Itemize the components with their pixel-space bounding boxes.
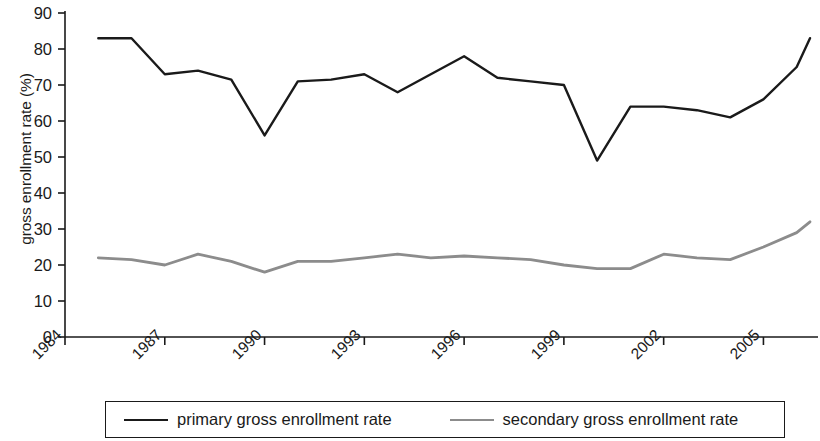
- chart-legend: primary gross enrollment rate secondary …: [105, 401, 785, 438]
- y-tick-label-40: 40: [34, 185, 52, 202]
- legend-label-primary: primary gross enrollment rate: [177, 410, 392, 429]
- legend-item-primary: primary gross enrollment rate: [124, 410, 392, 429]
- y-tick-label-10: 10: [34, 293, 52, 310]
- legend-label-secondary: secondary gross enrollment rate: [503, 410, 739, 429]
- series-line-primary: [98, 38, 810, 160]
- y-axis-tick-labels: 0102030405060708090: [0, 0, 52, 441]
- series-line-secondary: [98, 222, 810, 272]
- y-tick-label-20: 20: [34, 257, 52, 274]
- y-tick-label-90: 90: [34, 5, 52, 22]
- y-tick-label-50: 50: [34, 149, 52, 166]
- chart-figure: gross enrollment rate (%) 01020304050607…: [0, 0, 820, 441]
- y-tick-label-60: 60: [34, 113, 52, 130]
- primary-line-swatch: [124, 419, 168, 421]
- secondary-line-swatch: [450, 419, 494, 421]
- data-series-lines: [98, 38, 810, 272]
- axis-ticks: [58, 13, 763, 345]
- axis-lines: [65, 11, 818, 337]
- y-tick-label-70: 70: [34, 77, 52, 94]
- y-tick-label-80: 80: [34, 41, 52, 58]
- plot-area: [0, 0, 820, 441]
- legend-item-secondary: secondary gross enrollment rate: [450, 410, 739, 429]
- y-tick-label-30: 30: [34, 221, 52, 238]
